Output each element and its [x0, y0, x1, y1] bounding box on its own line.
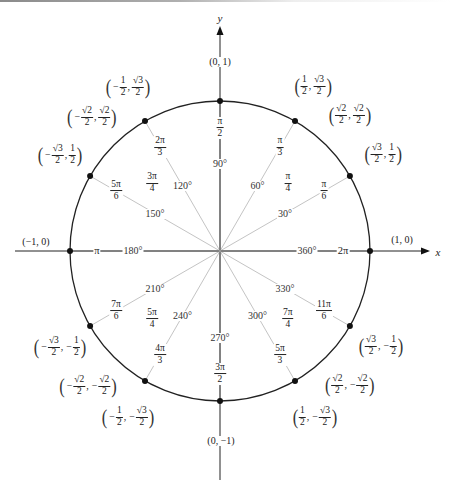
x-sign: − [44, 150, 52, 160]
y-fraction-denominator: 2 [360, 386, 365, 396]
unit-circle-diagram [0, 0, 452, 492]
x-fraction-denominator: 2 [121, 88, 126, 98]
radian-label-270: 3π2 [213, 363, 227, 385]
radian-fraction-315: 7π4 [282, 308, 294, 330]
coordinate-label-300: (12,−√32) [292, 406, 339, 428]
y-fraction-denominator: 2 [136, 88, 141, 98]
y-fraction-denominator: 2 [356, 116, 361, 126]
radian-fraction-210-denominator: 6 [114, 312, 119, 322]
open-paren: ( [329, 104, 334, 126]
radian-fraction-330: 11π6 [316, 300, 332, 322]
radian-fraction-60-numerator: π [277, 136, 284, 147]
radian-fraction-150: 5π6 [110, 180, 122, 202]
radian-fraction-120: 2π3 [154, 136, 166, 158]
radian-fraction-90: π2 [217, 117, 224, 139]
x-fraction-denominator: 2 [85, 118, 90, 128]
x-fraction-numerator: 1 [120, 76, 127, 87]
radian-fraction-315-denominator: 4 [285, 319, 290, 329]
coordinate-label-315: (√22,−√22) [324, 374, 376, 396]
y-fraction: √22 [99, 106, 111, 128]
close-paren: ) [149, 406, 154, 428]
radian-label-210: 7π6 [109, 300, 123, 322]
x-fraction-denominator: 2 [339, 116, 344, 126]
point-dot-270 [217, 398, 223, 404]
open-paren: ( [102, 406, 107, 428]
x-sign: − [66, 381, 74, 391]
axis-point-label-top: (0, 1) [208, 57, 232, 67]
radian-fraction-210-numerator: 7π [110, 300, 122, 311]
radian-label-240: 4π3 [153, 344, 167, 366]
radian-fraction-270-numerator: 3π [214, 363, 226, 374]
radian-fraction-120-denominator: 3 [158, 148, 163, 158]
y-fraction: 12 [69, 144, 76, 166]
radian-fraction-300-denominator: 3 [278, 355, 283, 365]
open-paren: ( [106, 76, 111, 98]
point-dot-300 [292, 378, 298, 384]
y-sign: − [65, 342, 73, 352]
degree-label-300: 300° [247, 311, 268, 321]
radian-label-135: 3π4 [145, 172, 159, 194]
x-fraction: √22 [335, 104, 347, 126]
point-dot-60 [292, 118, 298, 124]
radian-fraction-330-numerator: 11π [316, 300, 332, 311]
y-fraction-denominator: 2 [74, 348, 79, 358]
origin-dot [219, 250, 222, 253]
coordinate-label-225: (−√22,−√22) [58, 375, 117, 397]
y-fraction-numerator: √3 [313, 75, 325, 86]
radian-fraction-45-denominator: 4 [285, 184, 290, 194]
radian-fraction-330-denominator: 6 [322, 312, 327, 322]
y-axis-label: y [218, 13, 223, 24]
degree-label-180: 180° [123, 246, 144, 256]
x-axis-arrow-icon [421, 248, 430, 255]
x-fraction-numerator: √3 [52, 144, 64, 155]
x-fraction-denominator: 2 [369, 347, 374, 357]
radian-fraction-45-numerator: π [284, 172, 291, 183]
y-fraction: √22 [357, 374, 369, 396]
radian-fraction-270: 3π2 [214, 363, 226, 385]
x-fraction-denominator: 2 [52, 348, 57, 358]
x-fraction: √32 [52, 144, 64, 166]
y-fraction: √32 [136, 406, 148, 428]
degree-label-240: 240° [172, 311, 193, 321]
radian-label-120: 2π3 [153, 136, 167, 158]
close-paren: ) [332, 406, 337, 428]
y-fraction-numerator: √2 [99, 106, 111, 117]
point-dot-330 [347, 323, 353, 329]
degree-label-150: 150° [145, 209, 166, 219]
x-fraction-numerator: √2 [73, 375, 85, 386]
open-paren: ( [359, 335, 364, 357]
radian-label-225: 5π4 [145, 308, 159, 330]
y-fraction: √32 [313, 75, 325, 97]
coordinate-label-330: (√32,−12) [358, 335, 405, 357]
open-paren: ( [38, 144, 43, 166]
x-fraction-denominator: 2 [117, 418, 122, 428]
open-paren: ( [325, 374, 330, 396]
coordinate-label-60: (12,√32) [294, 75, 333, 97]
open-paren: ( [293, 406, 298, 428]
y-fraction-denominator: 2 [389, 155, 394, 165]
coordinate-label-240: (−12,−√32) [101, 406, 155, 428]
point-dot-150 [87, 173, 93, 179]
close-paren: ) [145, 76, 150, 98]
y-fraction: √32 [132, 76, 144, 98]
coordinate-label-120: (−12,√32) [105, 76, 152, 98]
x-fraction: √32 [48, 336, 60, 358]
coordinate-label-135: (−√22,√22) [66, 106, 118, 128]
radian-fraction-225-denominator: 4 [150, 319, 155, 329]
radian-label-0: 2π [337, 246, 350, 257]
x-fraction-numerator: √2 [81, 106, 93, 117]
degree-label-0: 360° [297, 246, 318, 256]
y-fraction: √32 [319, 406, 331, 428]
y-fraction-denominator: 2 [139, 418, 144, 428]
close-paren: ) [398, 335, 403, 357]
y-fraction-denominator: 2 [317, 87, 322, 97]
x-fraction-denominator: 2 [300, 418, 305, 428]
radian-fraction-270-denominator: 2 [218, 375, 223, 385]
radian-fraction-30-numerator: π [321, 180, 328, 191]
radian-fraction-210: 7π6 [110, 300, 122, 322]
radian-fraction-300-numerator: 5π [274, 344, 286, 355]
radian-fraction-30-denominator: 6 [322, 192, 327, 202]
radian-fraction-315-numerator: 7π [282, 308, 294, 319]
degree-label-30: 30° [277, 209, 293, 219]
radian-label-180: π [93, 246, 100, 257]
